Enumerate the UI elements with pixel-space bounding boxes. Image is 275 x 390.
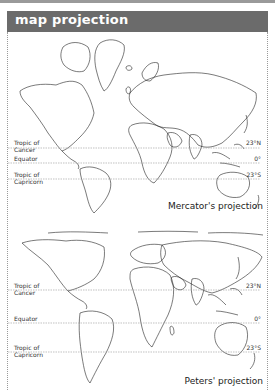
- peters-australia: [215, 323, 248, 356]
- mercator-uk: [126, 87, 131, 94]
- mercator-india: [189, 134, 202, 159]
- map-projection-card: map projection: [7, 11, 268, 390]
- mercator-caption: Mercator's projection: [168, 201, 263, 211]
- mercator-japan: [244, 115, 247, 133]
- mercator-capricorn-degree: 23°S: [247, 171, 261, 178]
- right-dotted-border: [267, 32, 268, 390]
- mercator-australia: [217, 172, 250, 197]
- peters-arctic: [48, 231, 263, 235]
- peters-africa: [130, 267, 174, 347]
- mercator-tropic-cancer-label: Tropic of Cancer: [14, 139, 39, 153]
- mercator-map-svg: [8, 33, 267, 213]
- peters-madagascar: [170, 326, 174, 335]
- mercator-arctic-islands: [61, 43, 90, 72]
- mercator-se-asia: [212, 144, 244, 167]
- peters-landmasses: [22, 231, 263, 383]
- mercator-tropic-capricorn-label: Tropic of Capricorn: [14, 171, 43, 185]
- top-rule: [0, 0, 275, 3]
- mercator-equator-degree: 0°: [254, 155, 261, 162]
- peters-tropic-cancer-label: Tropic of Cancer: [14, 282, 39, 296]
- mercator-iceland: [126, 66, 132, 71]
- mercator-cancer-degree: 23°N: [246, 139, 261, 146]
- peters-cancer-degree: 23°N: [246, 282, 261, 289]
- peters-tropic-capricorn-label: Tropic of Capricorn: [14, 344, 43, 358]
- peters-equator-degree: 0°: [254, 315, 261, 322]
- mercator-greenland: [95, 40, 125, 91]
- mercator-south-america: [80, 167, 111, 213]
- peters-new-zealand: [250, 353, 255, 369]
- peters-japan: [236, 257, 239, 279]
- mercator-eurasia: [129, 73, 256, 147]
- peters-south-america: [79, 311, 113, 383]
- peters-equator-label: Equator: [14, 315, 38, 322]
- peters-india: [191, 278, 204, 305]
- mercator-central-america: [62, 151, 79, 169]
- peters-map-svg: [8, 229, 267, 390]
- mercator-africa: [129, 123, 172, 183]
- card-header: map projection: [7, 11, 268, 32]
- mercator-equator-label: Equator: [14, 155, 38, 162]
- mercator-landmasses: [20, 40, 259, 213]
- card-title: map projection: [15, 12, 128, 27]
- mercator-arabia: [167, 132, 182, 147]
- peters-caption: Peters' projection: [185, 376, 263, 386]
- peters-central-america: [68, 291, 87, 309]
- peters-capricorn-degree: 23°S: [247, 344, 261, 351]
- peters-map: Tropic of Cancer Equator Tropic of Capri…: [8, 229, 267, 390]
- mercator-map: Tropic of Cancer Equator Tropic of Capri…: [8, 33, 267, 213]
